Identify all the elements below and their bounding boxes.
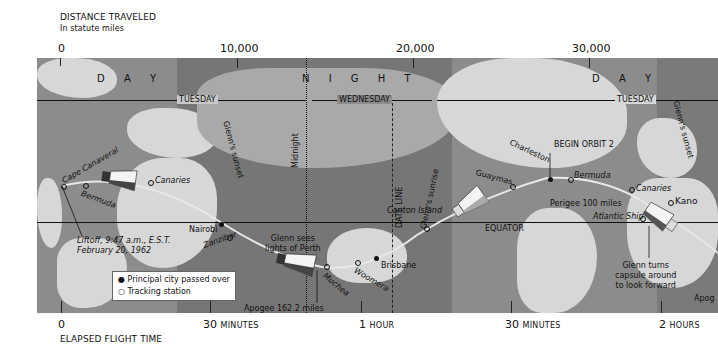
bermuda-label-2: Bermuda	[574, 171, 611, 180]
liftoff-annotation: Liftoff, 9:47 a.m., E.S.T. February 20, …	[77, 236, 170, 256]
tracking-station-icon	[424, 226, 430, 232]
tick	[210, 301, 211, 313]
tracking-station-icon	[355, 260, 361, 266]
tick	[61, 301, 62, 313]
tick	[511, 301, 512, 313]
turns-line-2: capsule around	[615, 271, 676, 281]
liftoff-line-1: Liftoff, 9:47 a.m., E.S.T.	[77, 236, 170, 246]
distance-tick-20000: 20,000	[396, 42, 435, 55]
legend-tracking-station: ○ Tracking station	[118, 286, 230, 298]
elapsed-time-title: ELAPSED FLIGHT TIME	[60, 334, 162, 344]
canaries-label-2: Canaries	[636, 184, 671, 193]
distance-tick-30000: 30,000	[572, 42, 611, 55]
distance-title: DISTANCE TRAVELED	[60, 12, 156, 22]
tracking-station-icon	[324, 264, 330, 270]
turns-line-3: to look forward	[615, 281, 676, 291]
tracking-station-icon	[83, 183, 89, 189]
atlantic-ship-label: Atlantic Ship	[593, 212, 644, 221]
perth-line-2: lights of Perth	[265, 244, 321, 254]
orbit-map: D A Y N I G H T D A Y TUESDAY WEDNESDAY …	[37, 58, 718, 313]
legend-principal-label: Principal city passed over	[128, 275, 230, 284]
tracking-station-icon	[668, 200, 674, 206]
turns-line-1: Glenn turns	[615, 261, 676, 271]
apogee-label: Apogee 162.2 miles	[244, 304, 324, 313]
perigee-label: Perigee 100 miles	[550, 199, 622, 208]
tick	[361, 301, 362, 313]
filled-dot-icon: ●	[118, 275, 125, 284]
canton-island-label: Canton Island	[387, 206, 427, 216]
capsule-turn-annotation: Glenn turns capsule around to look forwa…	[615, 261, 676, 291]
brisbane-label: Brisbane	[381, 261, 416, 270]
begin-orbit-label: BEGIN ORBIT 2	[554, 140, 614, 149]
distance-subtitle: In statute miles	[60, 24, 124, 33]
tracking-station-icon	[148, 180, 154, 186]
canaries-label-1: Canaries	[155, 176, 190, 185]
distance-tick-10000: 10,000	[220, 42, 259, 55]
time-tick-1hour: 1 HOUR	[359, 318, 394, 331]
time-tick-30min: 30 MINUTES	[203, 318, 259, 331]
time-tick-2hours: 2 HOURS	[659, 318, 700, 331]
time-tick-90min: 30 MINUTES	[505, 318, 561, 331]
principal-city-icon	[548, 177, 553, 182]
tracking-station-icon	[629, 187, 635, 193]
principal-city-icon	[219, 222, 224, 227]
open-circle-icon: ○	[118, 287, 125, 296]
principal-city-icon	[374, 256, 379, 261]
perth-annotation: Glenn sees lights of Perth	[265, 234, 321, 254]
time-tick-0: 0	[58, 318, 65, 331]
nairobi-label: Nairobi	[189, 225, 217, 234]
map-legend: ● Principal city passed over ○ Tracking …	[112, 271, 236, 301]
legend-principal-city: ● Principal city passed over	[118, 274, 230, 286]
tick	[661, 301, 662, 313]
liftoff-line-2: February 20, 1962	[77, 246, 170, 256]
apogee-edge-label: Apog	[694, 294, 715, 303]
kano-label: Kano	[675, 196, 697, 206]
legend-tracking-label: Tracking station	[128, 287, 191, 296]
distance-tick-0: 0	[58, 42, 65, 55]
perth-line-1: Glenn sees	[265, 234, 321, 244]
